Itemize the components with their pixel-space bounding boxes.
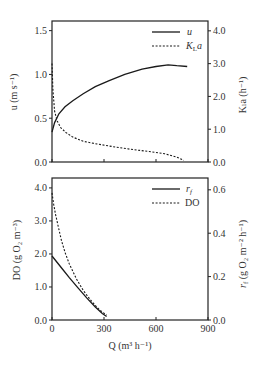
u-line (52, 65, 187, 132)
x-tick-label: 0 (50, 323, 55, 334)
y-right-tick-label: 0.2 (213, 271, 226, 282)
y-left-tick-label: 1.5 (35, 25, 48, 36)
top-legend: u KLa (152, 26, 202, 53)
y-left-tick-label: 1.0 (35, 281, 48, 292)
x-tick-label: 300 (97, 323, 112, 334)
bottom-legend: rf DO (152, 183, 199, 208)
top-axes-frame (52, 21, 208, 162)
legend-kla-label: KLa (185, 40, 202, 53)
y-left-tick-label: 3.0 (35, 215, 48, 226)
y-right-tick-label: 0.0 (213, 157, 226, 168)
y-right-tick-label: 3.0 (213, 58, 226, 69)
top-panel: 0.00.51.01.50.01.02.03.04.0 u KLa u (m s… (8, 21, 249, 168)
rf-line (52, 256, 107, 317)
figure: 0.00.51.01.50.01.02.03.04.0 u KLa u (m s… (0, 0, 257, 366)
y-left-tick-label: 1.0 (35, 69, 48, 80)
bottom-left-axis-label: DO (g O₂ m⁻³) (11, 220, 23, 280)
y-right-tick-label: 0.4 (213, 228, 226, 239)
y-left-tick-label: 0.5 (35, 113, 48, 124)
y-left-tick-label: 2.0 (35, 248, 48, 259)
bottom-right-axis-label: rf (g O₂ m⁻² h⁻¹) (237, 220, 250, 288)
kla-line (52, 64, 184, 161)
y-left-tick-label: 4.0 (35, 182, 48, 193)
top-right-axis-label: Kₗa (h⁻¹) (237, 77, 249, 114)
legend-rf-label: rf (186, 183, 193, 196)
y-left-tick-label: 0.0 (35, 157, 48, 168)
legend-do-label: DO (185, 197, 199, 208)
x-axis-label: Q (m³ h⁻¹) (109, 340, 152, 352)
y-right-tick-label: 2.0 (213, 91, 226, 102)
bottom-panel: 03006009000.01.02.03.04.00.00.20.40.6 rf… (11, 178, 250, 352)
top-left-axis-label: u (m s⁻¹) (8, 74, 20, 111)
x-tick-label: 600 (149, 323, 164, 334)
y-right-tick-label: 0.0 (213, 315, 226, 326)
y-right-tick-label: 4.0 (213, 25, 226, 36)
y-right-tick-label: 1.0 (213, 124, 226, 135)
y-left-tick-label: 0.0 (35, 315, 48, 326)
legend-u-label: u (187, 26, 192, 37)
do-line (52, 193, 107, 315)
y-right-tick-label: 0.6 (213, 184, 226, 195)
